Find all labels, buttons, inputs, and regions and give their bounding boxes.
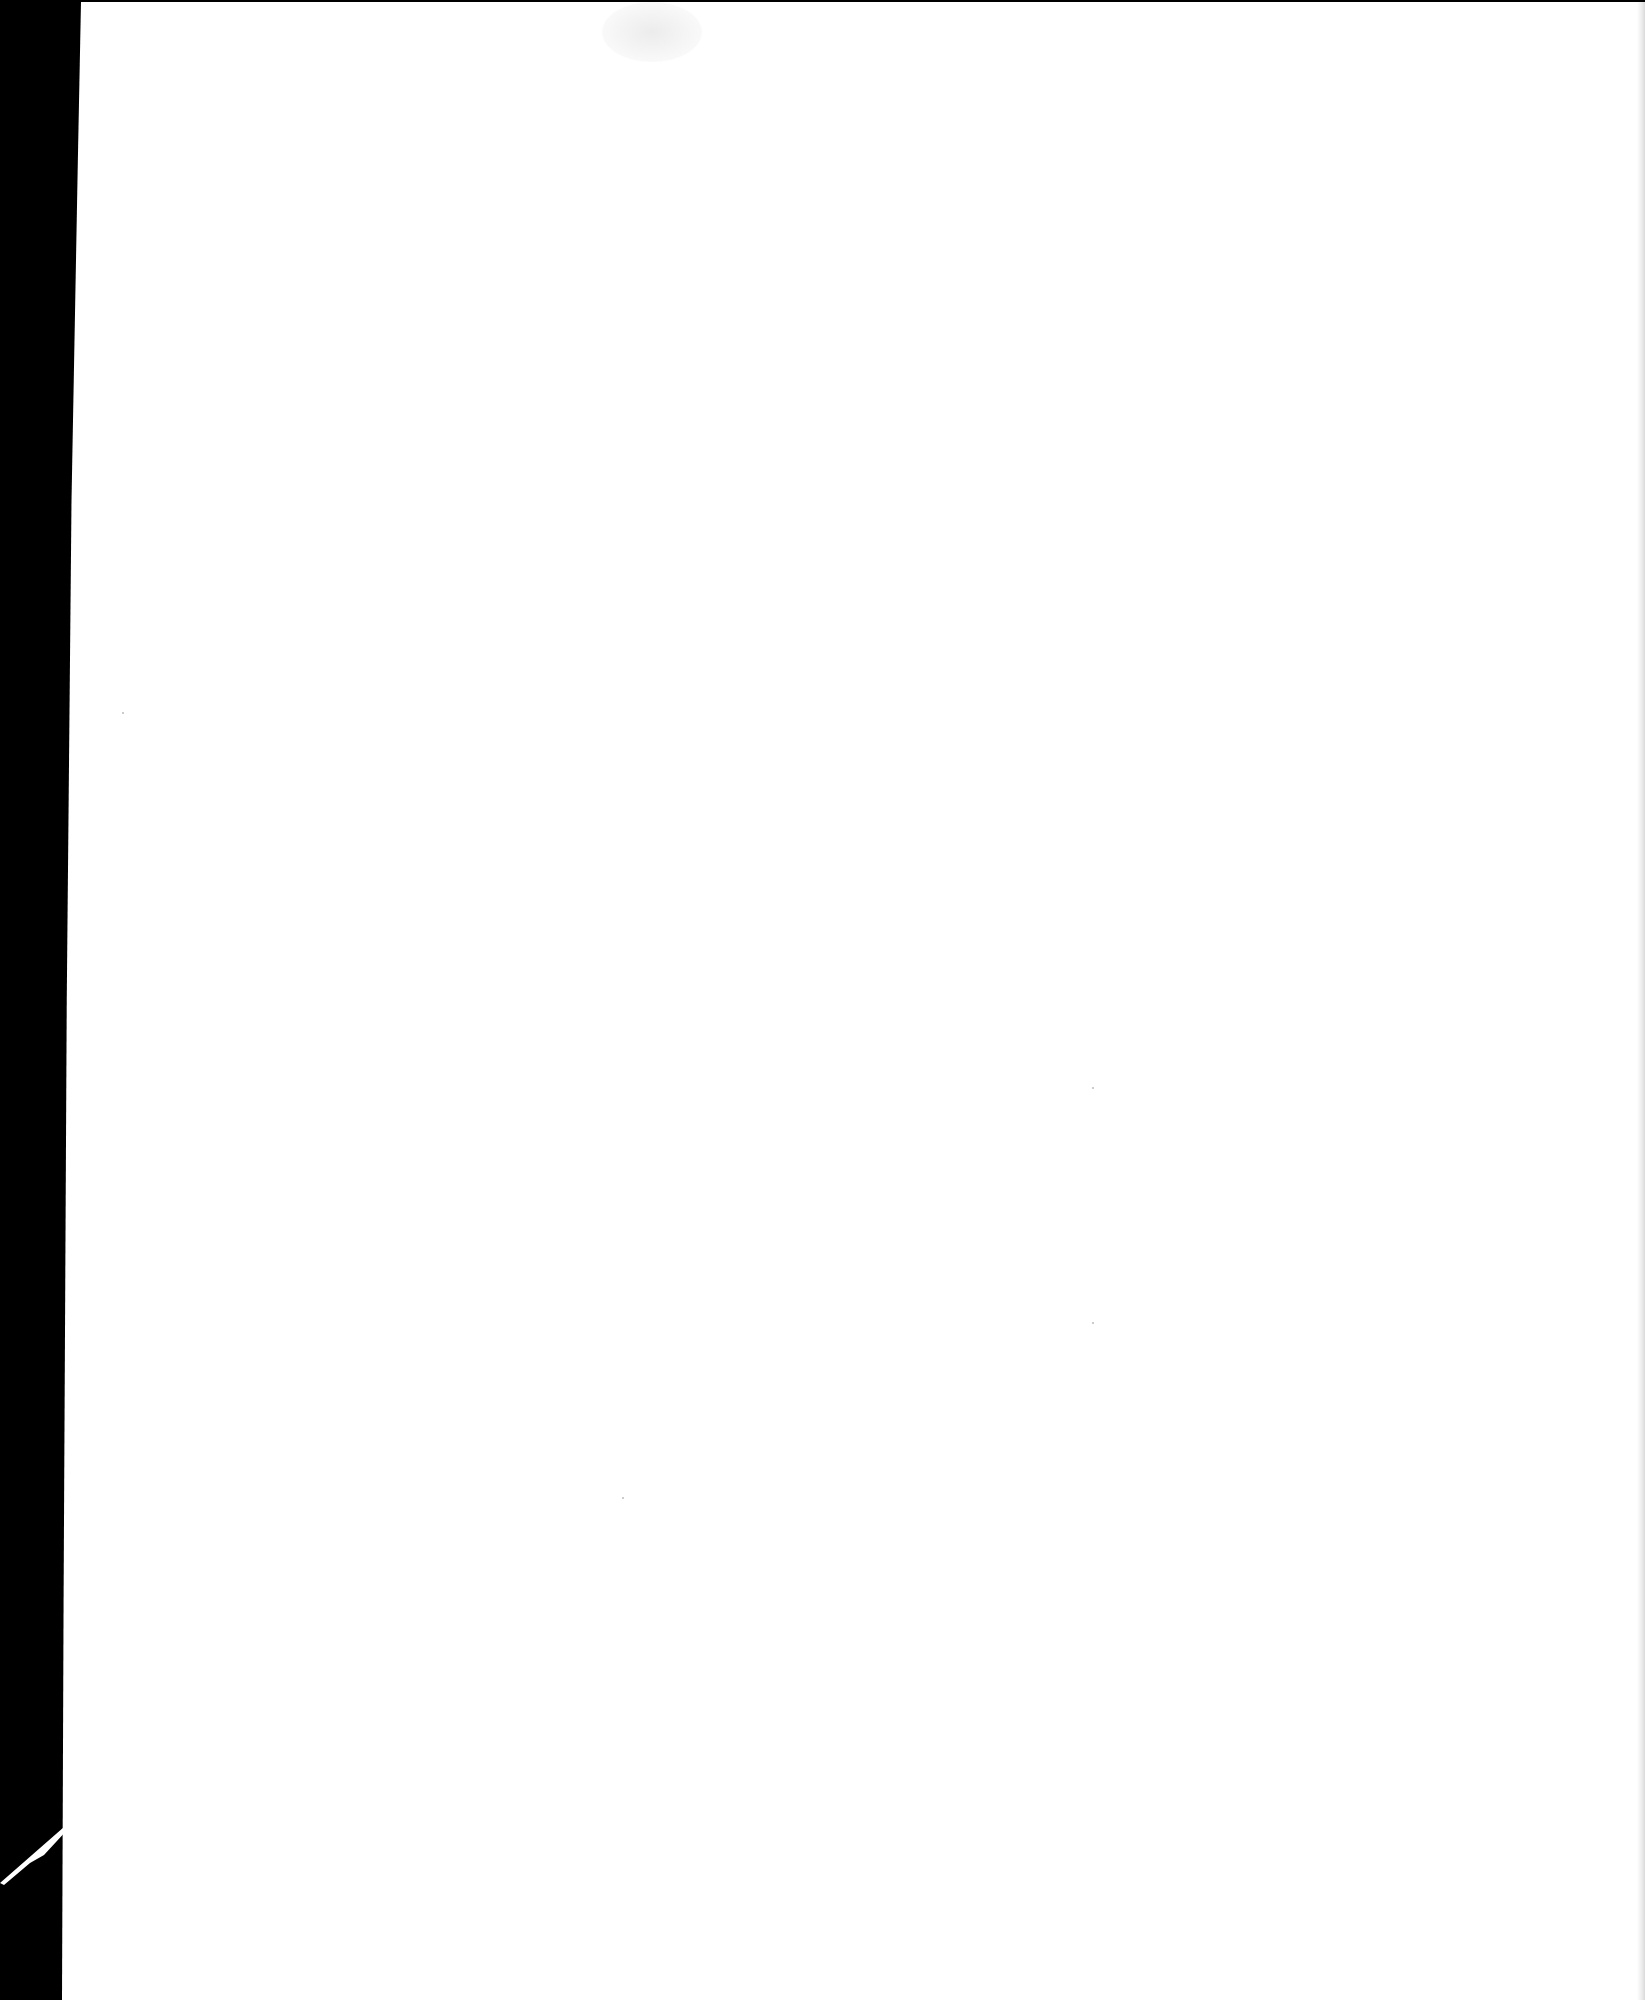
scan-speck	[622, 1497, 624, 1499]
scan-speck	[1092, 1322, 1094, 1324]
scan-speck	[122, 712, 124, 714]
blank-page	[62, 2, 1645, 2000]
page-edge	[1637, 2, 1645, 2000]
paper-tear-shape	[0, 1815, 68, 1885]
paper-stain	[602, 2, 702, 62]
scan-speck	[1092, 1087, 1094, 1089]
